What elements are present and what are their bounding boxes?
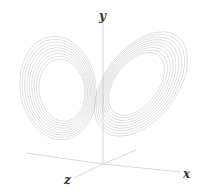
z-axis bbox=[74, 164, 103, 178]
lorenz-attractor-diagram: y x z bbox=[0, 0, 201, 194]
x-axis-negative bbox=[26, 153, 103, 164]
trajectory-ring bbox=[87, 28, 191, 139]
trajectory-ring bbox=[35, 56, 89, 124]
x-axis-label: x bbox=[182, 167, 191, 181]
z-axis-negative bbox=[103, 150, 136, 164]
trajectory-ring bbox=[19, 37, 100, 139]
y-axis-label: y bbox=[98, 9, 107, 23]
left-lobe bbox=[13, 31, 103, 145]
x-axis bbox=[103, 164, 181, 172]
z-axis-label: z bbox=[63, 173, 72, 187]
